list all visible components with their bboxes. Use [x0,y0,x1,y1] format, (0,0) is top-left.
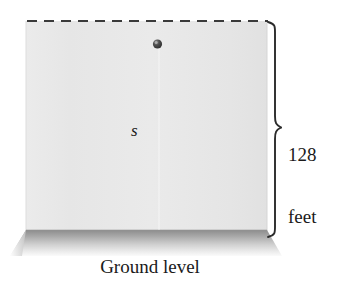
measurement-brace [268,22,281,237]
ground-level-label: Ground level [0,257,300,278]
drop-path-line [158,45,160,230]
distance-variable-label: s [131,122,138,140]
height-unit: feet [288,207,317,228]
ground-slab [10,230,282,256]
falling-ball [153,39,162,48]
figure-graphics [0,0,337,284]
falling-object-figure: 128 feet s Ground level [0,0,337,284]
gray-wall-panel [26,21,267,231]
height-label: 128 feet [288,104,317,268]
height-value: 128 [288,145,317,166]
